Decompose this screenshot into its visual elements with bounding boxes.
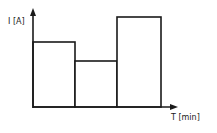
bar-3 [117,17,161,107]
bar-1 [33,42,75,107]
step-bar-chart: I [A] T [min] [0,0,217,133]
y-axis-arrow-icon [30,8,36,16]
y-axis-label: I [A] [8,17,25,26]
x-axis-arrow-icon [170,104,178,110]
bars [33,17,161,107]
bar-2 [75,61,117,107]
x-axis-label: T [min] [170,113,200,122]
